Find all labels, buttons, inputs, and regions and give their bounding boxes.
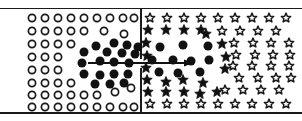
figure-canvas: Two-panel symbol array with transition a… (0, 0, 302, 121)
transition-arrow (0, 0, 302, 121)
